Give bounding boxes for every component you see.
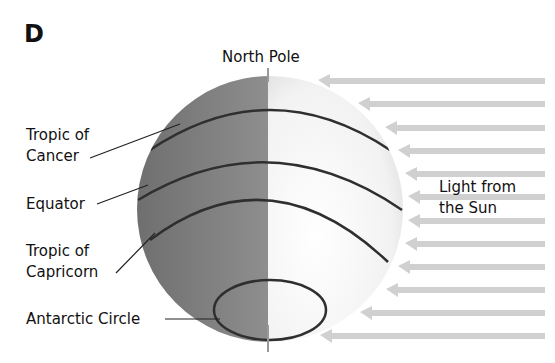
equator-label: Equator [26,195,85,214]
sunlight-label-line1: Light from [439,178,516,197]
antarctic-circle-label: Antarctic Circle [26,310,140,329]
tropic-of-cancer-label-line2: Cancer [26,147,79,166]
tropic-of-capricorn-label-line1: Tropic of [26,242,89,261]
sunlight-label-line2: the Sun [439,199,497,218]
tropic-of-cancer-label-line1: Tropic of [26,126,89,145]
earth-seasons-diagram: D [0,0,555,363]
tropic-of-capricorn-label-line2: Capricorn [26,263,98,282]
north-pole-label: North Pole [222,48,300,67]
